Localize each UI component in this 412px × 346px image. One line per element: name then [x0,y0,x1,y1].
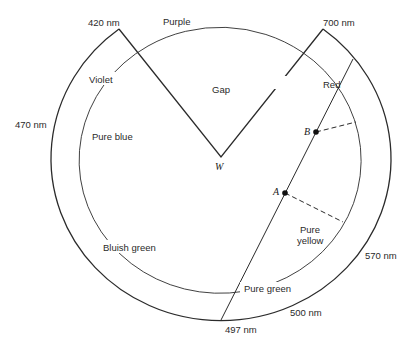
color-circle-diagram: 420 nm 700 nm 470 nm 570 nm 500 nm 497 n… [0,0,412,346]
dashed-line-a [285,193,343,222]
label-497nm: 497 nm [225,324,257,335]
point-b-marker [313,129,319,135]
label-point-w: W [215,161,225,172]
label-pure-yellow-1: Pure [300,224,320,235]
label-pure-yellow-2: yellow [297,235,324,246]
label-570nm: 570 nm [365,250,397,261]
label-pure-blue: Pure blue [92,131,133,142]
label-point-a: A [272,186,280,197]
label-pure-green: Pure green [244,283,291,294]
label-purple: Purple [163,16,190,27]
label-gap: Gap [212,84,230,95]
label-point-b: B [304,126,310,137]
label-420nm: 420 nm [88,17,120,28]
label-violet: Violet [89,74,113,85]
label-470nm: 470 nm [15,119,47,130]
dashed-line-b [316,122,356,132]
label-bluish-green: Bluish green [103,242,156,253]
point-a-marker [282,190,288,196]
label-red: Red [323,79,340,90]
label-500nm: 500 nm [290,307,322,318]
label-700nm: 700 nm [323,17,355,28]
